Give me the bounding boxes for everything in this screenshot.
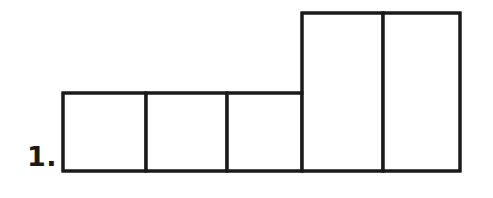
cell-5 <box>383 13 460 171</box>
figure-container: 1. <box>0 0 493 198</box>
cell-1 <box>63 93 146 171</box>
problem-number-label: 1. <box>27 140 61 174</box>
cell-4 <box>302 13 383 171</box>
cell-2 <box>146 93 227 171</box>
shape-diagram <box>0 0 493 198</box>
cell-3 <box>227 93 302 171</box>
